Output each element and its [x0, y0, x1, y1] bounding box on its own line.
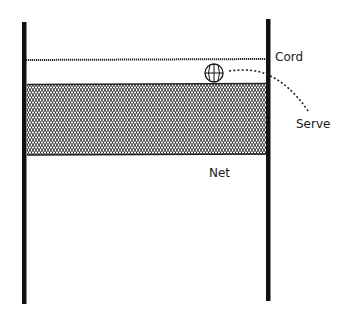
right-post [266, 19, 271, 301]
net-diagram-svg [0, 0, 338, 314]
cord-line [26, 59, 266, 60]
net-mesh [27, 84, 266, 156]
volleyball-icon [205, 64, 223, 82]
left-post [22, 22, 27, 304]
net-label: Net [209, 166, 230, 180]
serve-label: Serve [296, 117, 330, 131]
cord-label: Cord [275, 50, 303, 64]
net-diagram: Cord Serve Net [0, 0, 338, 314]
